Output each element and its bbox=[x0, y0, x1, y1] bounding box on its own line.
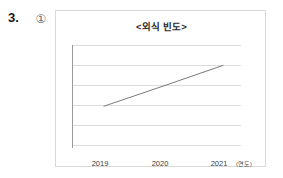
chart-title: <외식 빈도> bbox=[56, 19, 267, 33]
data-line bbox=[104, 65, 223, 106]
x-axis-unit-label: (연도) bbox=[236, 160, 252, 168]
choice-marker-1: ① bbox=[34, 12, 48, 26]
x-tick-label-2019: 2019 bbox=[85, 159, 115, 168]
figure-card: <외식 빈도> 2019 2020 2021 (연도) bbox=[55, 10, 266, 167]
series-line-eating-out-frequency bbox=[72, 45, 241, 147]
question-number: 3. bbox=[8, 11, 19, 25]
x-tick-label-2020: 2020 bbox=[145, 159, 175, 168]
x-tick-label-2021: 2021 bbox=[204, 159, 234, 168]
page-root: 3. ① <외식 빈도> 2019 2020 2021 (연도) bbox=[0, 0, 283, 178]
plot-area bbox=[72, 45, 241, 147]
